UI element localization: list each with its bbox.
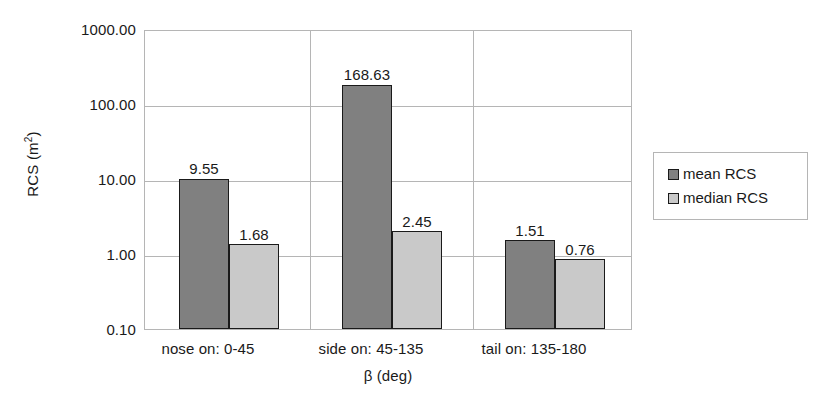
y-axis-title-tail: ) — [24, 131, 41, 136]
x-category-label-nose-on: nose on: 0-45 — [118, 340, 298, 357]
data-label-median-nose-on: 1.68 — [209, 227, 299, 243]
data-label-mean-side-on: 168.63 — [317, 67, 417, 83]
y-axis-title-text: RCS (m — [24, 142, 41, 197]
bar-mean-side-on[interactable] — [342, 85, 392, 329]
legend-item-median-rcs[interactable]: median RCS — [654, 186, 807, 210]
legend-swatch-mean-icon — [668, 169, 679, 180]
legend-item-mean-rcs[interactable]: mean RCS — [654, 162, 807, 186]
legend-label-mean-rcs: mean RCS — [683, 164, 756, 184]
legend-swatch-median-icon — [668, 193, 679, 204]
data-label-mean-tail-on: 1.51 — [485, 223, 575, 239]
data-label-mean-nose-on: 9.55 — [159, 161, 249, 177]
y-tick-label: 1000.00 — [50, 22, 136, 37]
y-tick-label: 0.10 — [50, 322, 136, 337]
chart-legend: mean RCS median RCS — [653, 152, 808, 220]
bar-median-nose-on[interactable] — [229, 244, 279, 329]
y-axis-title: RCS (m2) — [23, 94, 41, 234]
bar-median-tail-on[interactable] — [555, 259, 605, 329]
data-label-median-side-on: 2.45 — [372, 214, 462, 230]
y-axis-title-exponent: 2 — [23, 136, 34, 142]
x-category-label-side-on: side on: 45-135 — [281, 340, 461, 357]
legend-label-median-rcs: median RCS — [683, 188, 768, 208]
category-separator-1 — [310, 31, 311, 329]
x-axis-title: β (deg) — [144, 367, 632, 384]
y-tick-label: 1.00 — [50, 247, 136, 262]
y-tick-label: 100.00 — [50, 97, 136, 112]
category-separator-2 — [473, 31, 474, 329]
data-label-median-tail-on: 0.76 — [535, 242, 625, 258]
plot-area: 9.55 1.68 168.63 2.45 1.51 0.76 — [144, 30, 632, 330]
x-category-label-tail-on: tail on: 135-180 — [444, 340, 624, 357]
y-tick-label: 10.00 — [50, 172, 136, 187]
rcs-bar-chart: RCS (m2) 1000.00 100.00 10.00 1.00 0.10 … — [0, 0, 831, 408]
bar-mean-nose-on[interactable] — [179, 179, 229, 329]
bar-median-side-on[interactable] — [392, 231, 442, 329]
